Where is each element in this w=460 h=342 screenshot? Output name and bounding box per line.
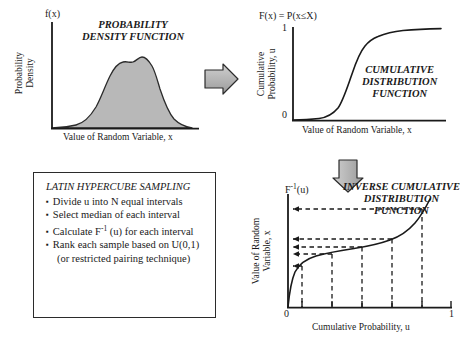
lhs-list-item: Select median of each interval — [46, 208, 199, 221]
icdf-x-axis-label: Cumulative Probability, u — [312, 322, 410, 332]
lhs-list-item: Calculate F-1 (u) for each interval — [46, 222, 199, 238]
cdf-x-axis-label: Value of Random Variable, x — [302, 125, 412, 135]
pdf-panel: f(x) PROBABILITY DENSITY FUNCTION Probab… — [0, 0, 215, 150]
right-block-arrow-icon — [202, 62, 242, 100]
right-block-arrow — [202, 62, 242, 100]
lhs-list-item: (or restricted pairing technique) — [46, 252, 199, 265]
cdf-panel: F(x) = P(x≤X) 1 0 Cumulative Probability… — [245, 0, 460, 155]
cdf-curve — [293, 29, 441, 120]
icdf-plot-area — [240, 180, 460, 342]
latin-hypercube-sampling-box: LATIN HYPERCUBE SAMPLING Divide u into N… — [33, 172, 216, 318]
icdf-xtick-left-label: 0 — [284, 308, 289, 319]
pdf-density-area — [52, 57, 192, 128]
lhs-list-item-tail: (u) for each interval — [107, 226, 193, 237]
lhs-box-title: LATIN HYPERCUBE SAMPLING — [46, 181, 190, 192]
icdf-xtick-right-label: 1 — [449, 308, 454, 319]
lhs-list-item-text: Calculate F — [53, 226, 101, 237]
pdf-x-axis-label: Value of Random Variable, x — [63, 132, 173, 142]
lhs-list-item: Divide u into N equal intervals — [46, 195, 199, 208]
lhs-box-list: Divide u into N equal intervals Select m… — [46, 195, 199, 265]
lhs-list-item: Rank each sample based on U(0,1) — [46, 238, 199, 251]
icdf-curve — [288, 199, 430, 307]
pdf-plot-area — [0, 0, 215, 150]
icdf-panel: F-1(u) INVERSE CUMULATIVE DISTRIBUTION F… — [240, 180, 460, 342]
